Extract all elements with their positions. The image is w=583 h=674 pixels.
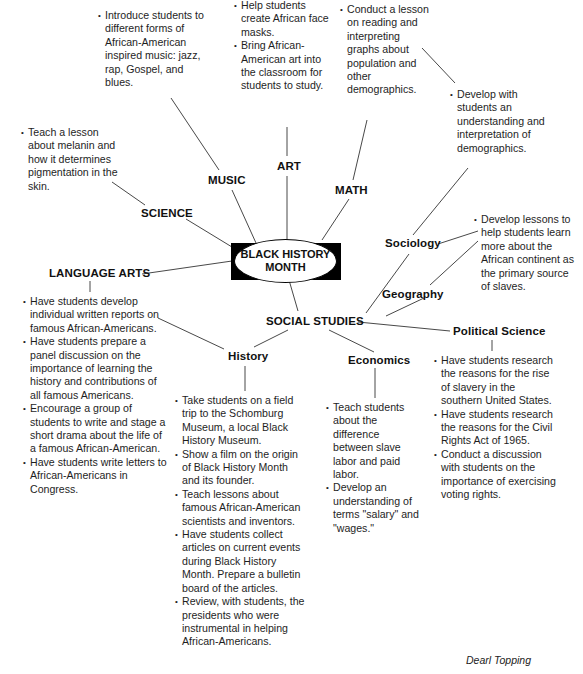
list-item: Have students research the reasons for t… bbox=[434, 408, 558, 448]
central-topic-ellipse: BLACK HISTORY MONTH bbox=[234, 239, 337, 283]
art-activities: Help students create African face masks.… bbox=[234, 0, 334, 93]
sociology-activities: Develop with students an understanding a… bbox=[450, 88, 550, 155]
list-item: Have students collect articles on curren… bbox=[175, 528, 305, 595]
economics-activities: Teach students about the difference betw… bbox=[326, 401, 422, 535]
concept-map: BLACK HISTORY MONTH Introduce students t… bbox=[0, 0, 583, 674]
list-item: Review, with students, the presidents wh… bbox=[175, 595, 305, 649]
list-item: Develop lessons to help students learn m… bbox=[474, 213, 579, 293]
node-political-science: Political Science bbox=[453, 325, 545, 337]
node-economics: Economics bbox=[348, 354, 410, 366]
list-item: Teach a lesson about melanin and how it … bbox=[21, 126, 121, 193]
list-item: Have students prepare a panel discussion… bbox=[23, 335, 169, 402]
list-item: Introduce students to different forms of… bbox=[98, 9, 208, 89]
list-item: Have students develop individual written… bbox=[23, 295, 169, 335]
node-geography: Geography bbox=[382, 288, 444, 300]
list-item: Teach students about the difference betw… bbox=[326, 401, 422, 481]
central-topic: BLACK HISTORY MONTH bbox=[231, 243, 341, 280]
node-music: MUSIC bbox=[208, 174, 246, 186]
list-item: Help students create African face masks. bbox=[234, 0, 334, 39]
list-item: Develop an understanding of terms "salar… bbox=[326, 481, 422, 535]
list-item: Conduct a lesson on reading and interpre… bbox=[340, 3, 430, 97]
list-item: Have students write letters to African-A… bbox=[23, 456, 169, 496]
node-art: ART bbox=[277, 160, 301, 172]
list-item: Have students research the reasons for t… bbox=[434, 354, 558, 408]
political-science-activities: Have students research the reasons for t… bbox=[434, 354, 558, 501]
central-topic-line2: MONTH bbox=[241, 261, 331, 274]
list-item: Teach lessons about famous African-Ameri… bbox=[175, 488, 305, 528]
math-activities: Conduct a lesson on reading and interpre… bbox=[340, 3, 430, 97]
author-credit: Dearl Topping bbox=[466, 654, 531, 666]
music-activities: Introduce students to different forms of… bbox=[98, 9, 208, 89]
list-item: Encourage a group of students to write a… bbox=[23, 402, 169, 456]
node-language-arts: LANGUAGE ARTS bbox=[49, 267, 150, 279]
node-math: MATH bbox=[335, 184, 368, 196]
history-activities: Take students on a field trip to the Sch… bbox=[175, 394, 305, 649]
language-arts-activities: Have students develop individual written… bbox=[23, 295, 169, 496]
list-item: Take students on a field trip to the Sch… bbox=[175, 394, 305, 448]
list-item: Show a film on the origin of Black Histo… bbox=[175, 448, 305, 488]
science-activities: Teach a lesson about melanin and how it … bbox=[21, 126, 121, 193]
node-science: SCIENCE bbox=[141, 207, 193, 219]
node-social-studies: SOCIAL STUDIES bbox=[266, 315, 364, 327]
list-item: Conduct a discussion with students on th… bbox=[434, 448, 558, 502]
list-item: Develop with students an understanding a… bbox=[450, 88, 550, 155]
central-topic-line1: BLACK HISTORY bbox=[241, 248, 331, 261]
list-item: Bring African-American art into the clas… bbox=[234, 39, 334, 93]
node-history: History bbox=[228, 350, 268, 362]
geography-activities: Develop lessons to help students learn m… bbox=[474, 213, 579, 293]
node-sociology: Sociology bbox=[385, 237, 441, 249]
